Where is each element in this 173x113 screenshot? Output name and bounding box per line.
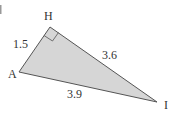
triangle-diagram: H A I 1.5 3.6 3.9 [0, 0, 173, 113]
side-label-HI: 3.6 [102, 48, 117, 62]
triangle-AHI [19, 27, 157, 102]
vertex-label-H: H [44, 9, 53, 23]
vertex-label-A: A [8, 67, 17, 81]
side-label-AI: 3.9 [67, 87, 82, 101]
vertex-label-I: I [164, 98, 168, 112]
edge-mark [0, 5, 2, 14]
side-label-AH: 1.5 [13, 37, 28, 51]
